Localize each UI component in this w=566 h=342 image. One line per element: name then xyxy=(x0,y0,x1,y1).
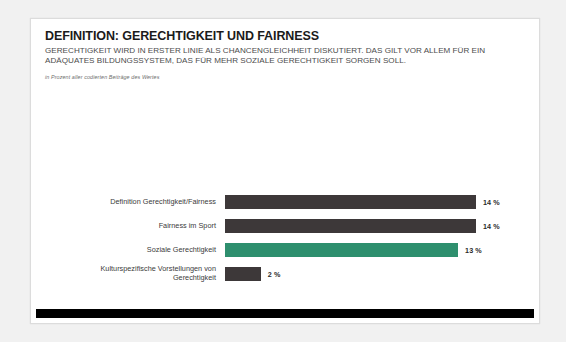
bar-category-label: Definition Gerechtigkeit/Fairness xyxy=(45,198,225,207)
chart-subtitle: GERECHTIGKEIT WIRD IN ERSTER LINIE ALS C… xyxy=(45,46,497,66)
bar-value-label: 13 % xyxy=(465,246,482,255)
bar-category-label: Fairness im Sport xyxy=(45,222,225,231)
bar-chart: Definition Gerechtigkeit/Fairness 14 % F… xyxy=(45,195,525,281)
bar-segment-highlighted xyxy=(225,243,458,257)
chart-row: Soziale Gerechtigkeit 13 % xyxy=(45,243,525,257)
bar-segment xyxy=(225,195,476,209)
bar-value-label: 2 % xyxy=(268,270,281,279)
card-body: DEFINITION: GERECHTIGKEIT UND FAIRNESS G… xyxy=(31,19,539,309)
chart-row: Kulturspezifische Vorstellungen von Gere… xyxy=(45,267,525,281)
bar-value-label: 14 % xyxy=(483,198,500,207)
bar-value-label: 14 % xyxy=(483,222,500,231)
bar-segment xyxy=(225,267,261,281)
bar-track: 14 % xyxy=(225,195,525,209)
page-title: DEFINITION: GERECHTIGKEIT UND FAIRNESS xyxy=(45,29,525,44)
bar-track: 14 % xyxy=(225,219,525,233)
source-note: in Prozent aller codierten Beiträge des … xyxy=(45,73,525,81)
bar-track: 13 % xyxy=(225,243,525,257)
chart-row: Fairness im Sport 14 % xyxy=(45,219,525,233)
bar-segment xyxy=(225,219,476,233)
chart-row: Definition Gerechtigkeit/Fairness 14 % xyxy=(45,195,525,209)
infographic-card: DEFINITION: GERECHTIGKEIT UND FAIRNESS G… xyxy=(30,18,540,324)
chart-header: DEFINITION: GERECHTIGKEIT UND FAIRNESS G… xyxy=(45,29,525,81)
bar-category-label: Soziale Gerechtigkeit xyxy=(45,246,225,255)
bar-category-label: Kulturspezifische Vorstellungen von Gere… xyxy=(45,265,225,282)
footer-rule xyxy=(36,309,534,318)
page-background: DEFINITION: GERECHTIGKEIT UND FAIRNESS G… xyxy=(0,0,566,342)
bar-track: 2 % xyxy=(225,267,525,281)
